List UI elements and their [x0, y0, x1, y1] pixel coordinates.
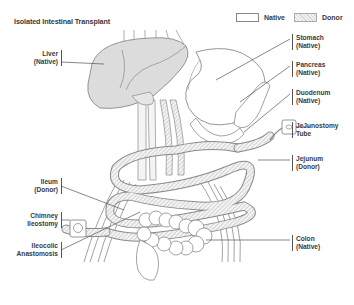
label-duodenum: Duodenum (Native) [292, 89, 330, 105]
label-pancreas-name: Pancreas [296, 61, 325, 69]
label-jejunostomy-status: Tube [296, 130, 339, 138]
label-ileum-status: (Donor) [18, 186, 58, 194]
label-duodenum-name: Duodenum [296, 89, 330, 97]
label-chimney-name: Chimney [18, 212, 58, 220]
label-ileocolic-status: Anastomosis [8, 250, 58, 258]
label-ileum-name: Ileum [18, 178, 58, 186]
label-liver-name: Liver [18, 50, 58, 58]
label-jejunum-name: Jejunum [296, 155, 323, 163]
label-colon-status: (Native) [296, 243, 320, 251]
label-jejunum-status: (Donor) [296, 163, 323, 171]
label-stomach-name: Stomach [296, 34, 324, 42]
chimney-ileostomy-device [70, 220, 86, 237]
label-pancreas-status: (Native) [296, 69, 325, 77]
label-pancreas: Pancreas (Native) [292, 61, 325, 77]
label-liver: Liver (Native) [18, 50, 62, 66]
label-colon: Colon (Native) [292, 235, 320, 251]
label-jejunostomy-tube: JeJunostomy Tube [292, 122, 339, 138]
label-jejunum: Jejunum (Donor) [292, 155, 323, 171]
label-ileocolic-anastomosis: Ileocolic Anastomosis [8, 242, 62, 258]
label-chimney-ileostomy: Chimney Ileostomy [18, 212, 62, 228]
label-liver-status: (Native) [18, 58, 58, 66]
label-ileum: Ileum (Donor) [18, 178, 62, 194]
label-stomach-status: (Native) [296, 42, 324, 50]
colon-shape [136, 211, 212, 280]
label-jejunostomy-name: JeJunostomy [296, 122, 339, 130]
label-colon-name: Colon [296, 235, 320, 243]
label-stomach: Stomach (Native) [292, 34, 324, 50]
label-ileocolic-name: Ileocolic [8, 242, 58, 250]
label-chimney-status: Ileostomy [18, 220, 58, 228]
vessels-central [138, 100, 184, 180]
label-duodenum-status: (Native) [296, 97, 330, 105]
